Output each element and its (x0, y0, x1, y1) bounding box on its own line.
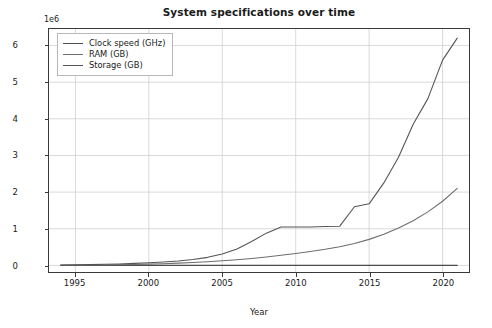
y-tick-label: 2 (13, 187, 18, 197)
y-tick-label: 4 (13, 114, 18, 124)
x-tick-mark (296, 273, 297, 277)
y-tick-mark (45, 82, 49, 83)
legend-color-swatch (63, 43, 83, 44)
x-tick-label: 2000 (138, 278, 160, 288)
series-line-1 (61, 188, 458, 265)
y-tick-mark (45, 192, 49, 193)
y-tick-mark (45, 229, 49, 230)
y-tick-label: 6 (13, 40, 18, 50)
x-tick-label: 2015 (359, 278, 381, 288)
x-tick-mark (75, 273, 76, 277)
y-tick-label: 0 (13, 261, 18, 271)
x-tick-mark (148, 273, 149, 277)
legend-color-swatch (63, 65, 83, 66)
y-tick-mark (45, 266, 49, 267)
y-tick-label: 5 (13, 77, 18, 87)
y-tick-label: 1 (13, 224, 18, 234)
x-tick-mark (222, 273, 223, 277)
x-axis-label: Year (48, 307, 470, 317)
chart-legend[interactable]: Clock speed (GHz)RAM (GB)Storage (GB) (57, 33, 173, 76)
x-tick-mark (370, 273, 371, 277)
legend-label: Clock speed (GHz) (89, 38, 165, 49)
x-tick-label: 2010 (285, 278, 307, 288)
legend-color-swatch (63, 54, 83, 55)
legend-label: Storage (GB) (89, 60, 143, 71)
y-tick-label: 3 (13, 150, 18, 160)
legend-item-1[interactable]: RAM (GB) (63, 49, 165, 60)
chart-title: System specifications over time (48, 6, 470, 18)
x-tick-label: 1995 (64, 278, 86, 288)
legend-item-2[interactable]: Storage (GB) (63, 60, 165, 71)
chart-figure: System specifications over time 1e6 Valu… (0, 0, 492, 328)
y-tick-mark (45, 45, 49, 46)
x-tick-mark (443, 273, 444, 277)
legend-item-0[interactable]: Clock speed (GHz) (63, 38, 165, 49)
x-tick-label: 2020 (433, 278, 455, 288)
y-tick-mark (45, 119, 49, 120)
legend-label: RAM (GB) (89, 49, 129, 60)
y-axis-offset-label: 1e6 (44, 15, 59, 24)
y-tick-mark (45, 155, 49, 156)
x-tick-label: 2005 (211, 278, 233, 288)
